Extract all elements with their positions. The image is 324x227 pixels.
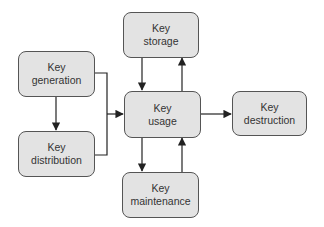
- node-label-line1: Key: [151, 182, 169, 195]
- node-label-line1: Key: [152, 22, 170, 35]
- node-key-storage: Key storage: [123, 12, 199, 58]
- node-key-destruction: Key destruction: [232, 91, 307, 136]
- node-label-line2: maintenance: [130, 195, 190, 208]
- node-label-line1: Key: [47, 141, 65, 154]
- node-label-line1: Key: [153, 102, 171, 115]
- node-key-generation: Key generation: [18, 51, 95, 97]
- node-key-distribution: Key distribution: [18, 131, 95, 177]
- node-label-line1: Key: [260, 101, 278, 114]
- node-key-maintenance: Key maintenance: [122, 172, 199, 218]
- node-label-line2: destruction: [244, 114, 295, 127]
- node-label-line2: storage: [143, 35, 178, 48]
- node-label-line2: generation: [32, 74, 82, 87]
- edge-distribution-usage: [94, 114, 107, 155]
- key-lifecycle-diagram: Key generation Key distribution Key stor…: [0, 0, 324, 227]
- node-label-line2: usage: [148, 115, 177, 128]
- node-label-line2: distribution: [31, 154, 82, 167]
- edge-generation-usage: [94, 73, 107, 114]
- node-label-line1: Key: [47, 61, 65, 74]
- node-key-usage: Key usage: [124, 91, 201, 138]
